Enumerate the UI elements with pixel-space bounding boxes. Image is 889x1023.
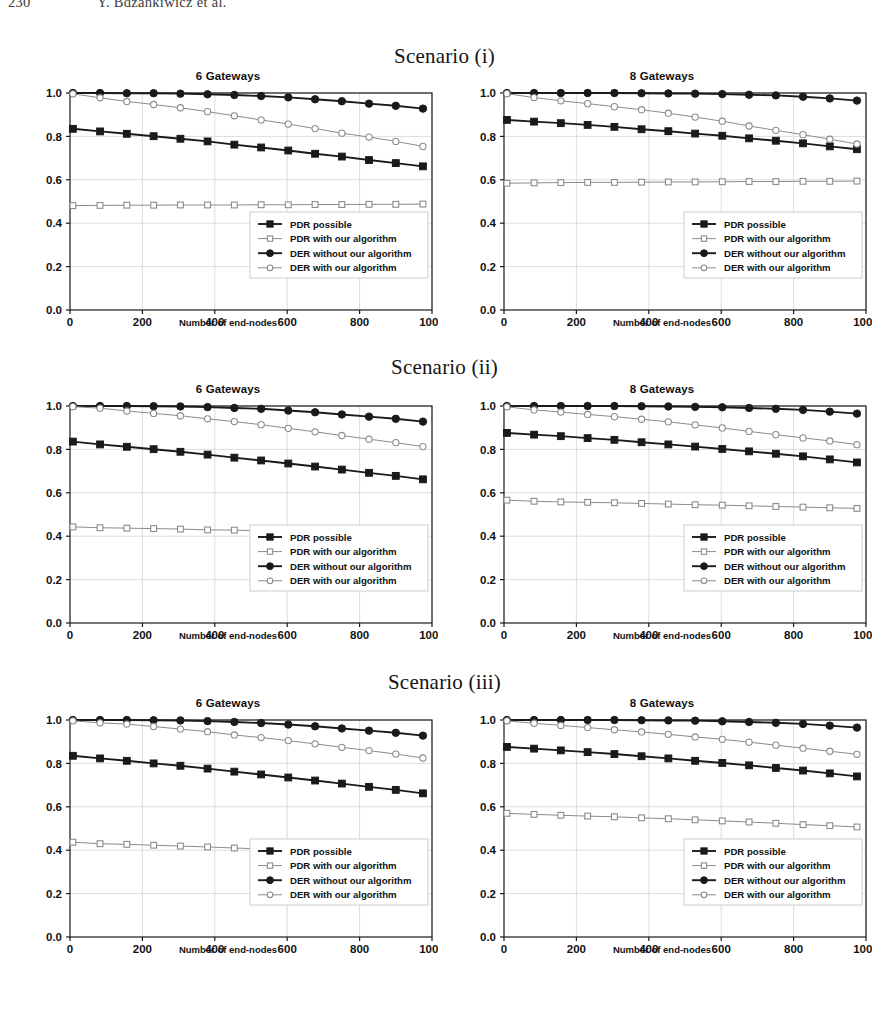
svg-text:1.0: 1.0: [480, 87, 496, 99]
x-axis-label: Number of end-nodes: [18, 630, 438, 641]
svg-text:0.6: 0.6: [480, 174, 496, 186]
svg-text:0.6: 0.6: [46, 487, 62, 499]
chart-title: 8 Gateways: [452, 70, 872, 82]
chart-title: 6 Gateways: [18, 697, 438, 709]
series-line: [503, 716, 860, 731]
plot-area: 020040060080010000.00.20.40.60.81.0PDR p…: [452, 399, 872, 653]
svg-text:0.6: 0.6: [480, 487, 496, 499]
svg-text:0.8: 0.8: [480, 131, 497, 143]
x-axis-label: Number of end-nodes: [18, 317, 438, 328]
svg-text:0.6: 0.6: [480, 801, 496, 813]
svg-text:0.0: 0.0: [480, 931, 496, 943]
svg-text:PDR with our algorithm: PDR with our algorithm: [724, 233, 831, 244]
svg-text:0.0: 0.0: [480, 304, 496, 316]
svg-text:DER with our algorithm: DER with our algorithm: [290, 889, 397, 900]
svg-text:0.6: 0.6: [46, 174, 62, 186]
chart-panel: 6 Gateways020040060080010000.00.20.40.60…: [18, 383, 438, 653]
svg-text:PDR possible: PDR possible: [290, 532, 352, 543]
svg-text:0.8: 0.8: [46, 131, 63, 143]
x-axis-label: Number of end-nodes: [452, 944, 872, 955]
svg-text:1.0: 1.0: [480, 400, 496, 412]
series-line: [504, 497, 860, 511]
svg-text:0.2: 0.2: [46, 261, 62, 273]
svg-text:0.4: 0.4: [480, 530, 497, 542]
svg-text:1.0: 1.0: [46, 400, 62, 412]
x-axis-label: Number of end-nodes: [452, 630, 872, 641]
svg-text:PDR with our algorithm: PDR with our algorithm: [290, 233, 397, 244]
svg-text:0.0: 0.0: [46, 304, 62, 316]
chart-panel: 8 Gateways020040060080010000.00.20.40.60…: [452, 70, 872, 340]
svg-text:PDR with our algorithm: PDR with our algorithm: [724, 860, 831, 871]
chart-title: 6 Gateways: [18, 383, 438, 395]
svg-text:DER without our algorithm: DER without our algorithm: [290, 875, 412, 886]
svg-text:DER without our algorithm: DER without our algorithm: [724, 248, 846, 259]
series-line: [69, 752, 426, 796]
plot-area: 020040060080010000.00.20.40.60.81.0PDR p…: [18, 86, 438, 340]
chart-legend: PDR possiblePDR with our algorithmDER wi…: [250, 212, 428, 278]
series-line: [70, 91, 426, 150]
plot-area: 020040060080010000.00.20.40.60.81.0PDR p…: [452, 713, 872, 967]
series-line: [503, 430, 860, 466]
figure-grid: 6 Gateways020040060080010000.00.20.40.60…: [0, 0, 889, 1023]
chart-legend: PDR possiblePDR with our algorithmDER wi…: [250, 525, 428, 591]
svg-text:0.2: 0.2: [480, 574, 496, 586]
svg-text:0.6: 0.6: [46, 801, 62, 813]
svg-text:0.4: 0.4: [480, 844, 497, 856]
svg-text:DER with our algorithm: DER with our algorithm: [724, 262, 831, 273]
axis-ticks: 020040060080010000.00.20.40.60.81.0: [46, 714, 438, 955]
svg-text:0.8: 0.8: [46, 758, 63, 770]
svg-text:1.0: 1.0: [46, 87, 62, 99]
svg-text:0.4: 0.4: [46, 217, 63, 229]
chart-panel: 6 Gateways020040060080010000.00.20.40.60…: [18, 70, 438, 340]
series-line: [504, 91, 860, 148]
svg-text:0.4: 0.4: [480, 217, 497, 229]
x-axis-label: Number of end-nodes: [18, 944, 438, 955]
plot-area: 020040060080010000.00.20.40.60.81.0PDR p…: [18, 713, 438, 967]
x-axis-label: Number of end-nodes: [452, 317, 872, 328]
chart-title: 8 Gateways: [452, 697, 872, 709]
svg-text:DER without our algorithm: DER without our algorithm: [290, 561, 412, 572]
svg-text:DER with our algorithm: DER with our algorithm: [724, 575, 831, 586]
series-line: [503, 402, 860, 417]
svg-text:DER with our algorithm: DER with our algorithm: [290, 262, 397, 273]
svg-text:0.2: 0.2: [46, 888, 62, 900]
svg-text:DER with our algorithm: DER with our algorithm: [724, 889, 831, 900]
series-line: [504, 810, 860, 829]
axis-ticks: 020040060080010000.00.20.40.60.81.0: [46, 87, 438, 328]
chart-panel: 8 Gateways020040060080010000.00.20.40.60…: [452, 383, 872, 653]
series-line: [70, 404, 426, 450]
svg-text:0.0: 0.0: [46, 931, 62, 943]
svg-text:0.2: 0.2: [480, 261, 496, 273]
chart-title: 8 Gateways: [452, 383, 872, 395]
axis-ticks: 020040060080010000.00.20.40.60.81.0: [480, 714, 872, 955]
chart-panel: 6 Gateways020040060080010000.00.20.40.60…: [18, 697, 438, 967]
chart-legend: PDR possiblePDR with our algorithmDER wi…: [684, 839, 862, 905]
svg-text:PDR possible: PDR possible: [290, 219, 352, 230]
svg-text:1.0: 1.0: [480, 714, 496, 726]
svg-text:0.8: 0.8: [480, 758, 497, 770]
series-line: [69, 438, 426, 483]
svg-text:PDR possible: PDR possible: [724, 846, 786, 857]
series-line: [70, 718, 426, 761]
svg-text:0.2: 0.2: [46, 574, 62, 586]
series-line: [70, 201, 426, 208]
chart-panel: 8 Gateways020040060080010000.00.20.40.60…: [452, 697, 872, 967]
svg-text:0.0: 0.0: [480, 617, 496, 629]
axis-ticks: 020040060080010000.00.20.40.60.81.0: [480, 87, 872, 328]
svg-text:DER without our algorithm: DER without our algorithm: [724, 875, 846, 886]
plot-area: 020040060080010000.00.20.40.60.81.0PDR p…: [18, 399, 438, 653]
svg-text:0.8: 0.8: [46, 444, 63, 456]
series-line: [503, 117, 860, 153]
chart-legend: PDR possiblePDR with our algorithmDER wi…: [684, 525, 862, 591]
svg-text:PDR with our algorithm: PDR with our algorithm: [724, 546, 831, 557]
svg-text:0.8: 0.8: [480, 444, 497, 456]
svg-text:PDR with our algorithm: PDR with our algorithm: [290, 860, 397, 871]
svg-text:0.0: 0.0: [46, 617, 62, 629]
svg-text:PDR possible: PDR possible: [290, 846, 352, 857]
axis-ticks: 020040060080010000.00.20.40.60.81.0: [46, 400, 438, 641]
chart-title: 6 Gateways: [18, 70, 438, 82]
axis-ticks: 020040060080010000.00.20.40.60.81.0: [480, 400, 872, 641]
chart-legend: PDR possiblePDR with our algorithmDER wi…: [250, 839, 428, 905]
svg-text:PDR possible: PDR possible: [724, 219, 786, 230]
svg-text:0.4: 0.4: [46, 530, 63, 542]
